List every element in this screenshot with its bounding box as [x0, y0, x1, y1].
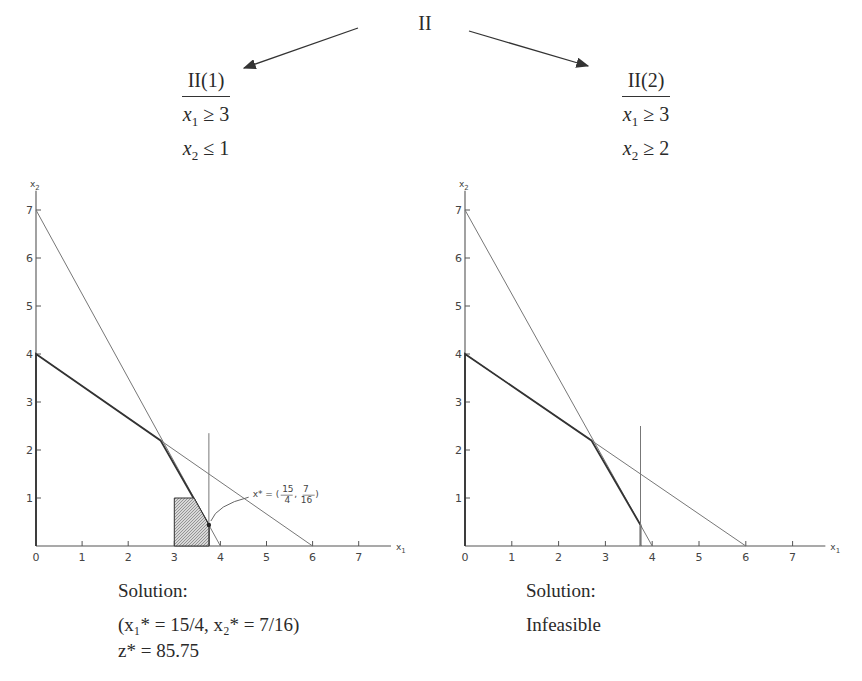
y-axis-title: x2 — [459, 179, 469, 192]
y-tick-label: 5 — [26, 300, 33, 313]
solution-status: Infeasible — [526, 612, 601, 638]
annotation-arrow — [211, 497, 249, 521]
annotation-label: x* = ( 15 4,716) — [253, 484, 319, 505]
x-tick-label: 6 — [742, 551, 749, 564]
constraint-row: x1 ≥ 3 — [166, 101, 246, 135]
x-tick-label: 6 — [309, 551, 316, 564]
constraint-row: x2 ≥ 2 — [606, 135, 686, 169]
feasible-region — [174, 498, 209, 546]
arrow-to-right-child — [469, 31, 588, 66]
y-tick-label: 1 — [455, 492, 462, 505]
optimal-point — [207, 523, 211, 527]
x-tick-label: 4 — [217, 551, 224, 564]
y-tick-label: 7 — [26, 204, 33, 217]
tree-arrows — [0, 0, 862, 80]
x-tick-label: 2 — [125, 551, 132, 564]
y-tick-label: 3 — [455, 396, 462, 409]
constraint-row: x2 ≤ 1 — [166, 135, 246, 169]
node-label: II(1) — [182, 67, 231, 97]
x-axis-title: x1 — [830, 542, 840, 555]
x-tick-label: 5 — [263, 551, 270, 564]
y-tick-label: 6 — [26, 252, 33, 265]
solution-heading: Solution: — [526, 578, 601, 604]
y-tick-label: 4 — [455, 348, 462, 361]
arrow-to-left-child — [244, 28, 358, 68]
node-II-1: II(1) x1 ≥ 3 x2 ≤ 1 — [166, 67, 246, 169]
x-tick-label: 1 — [508, 551, 515, 564]
x-axis-title: x1 — [396, 542, 406, 555]
x-tick-label: 3 — [171, 551, 178, 564]
y-tick-label: 2 — [455, 444, 462, 457]
y-tick-label: 7 — [455, 204, 462, 217]
solution-right: Solution: Infeasible — [526, 578, 601, 638]
series-line — [465, 354, 641, 546]
y-axis-title: x2 — [30, 179, 40, 192]
solution-objective: z* = 85.75 — [118, 638, 299, 664]
y-tick-label: 5 — [455, 300, 462, 313]
x-tick-label: 3 — [602, 551, 609, 564]
x-tick-label: 0 — [462, 551, 469, 564]
solution-heading: Solution: — [118, 578, 299, 604]
solution-values: (x₁* = 15/4, x₂* = 7/16) — [118, 612, 299, 638]
chart-II-1: 012345671234567x1x2x* = ( 15 4,716) — [0, 170, 430, 570]
chart-II-2: 012345671234567x1x2 — [430, 170, 862, 570]
y-tick-label: 2 — [26, 444, 33, 457]
x-tick-label: 1 — [79, 551, 86, 564]
y-tick-label: 6 — [455, 252, 462, 265]
y-tick-label: 3 — [26, 396, 33, 409]
y-tick-label: 4 — [26, 348, 33, 361]
solution-left: Solution: (x₁* = 15/4, x₂* = 7/16) z* = … — [118, 578, 299, 664]
x-tick-label: 4 — [649, 551, 656, 564]
x-tick-label: 2 — [555, 551, 562, 564]
x-tick-label: 0 — [33, 551, 40, 564]
x-tick-label: 5 — [696, 551, 703, 564]
node-II-2: II(2) x1 ≥ 3 x2 ≥ 2 — [606, 67, 686, 169]
y-tick-label: 1 — [26, 492, 33, 505]
x-tick-label: 7 — [355, 551, 362, 564]
node-label: II(2) — [622, 67, 671, 97]
constraint-row: x1 ≥ 3 — [606, 101, 686, 135]
x-tick-label: 7 — [789, 551, 796, 564]
